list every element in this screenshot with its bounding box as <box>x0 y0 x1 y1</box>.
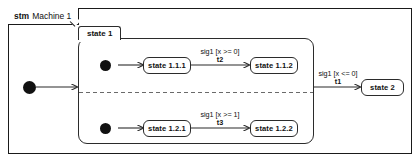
state-state-1-2-2[interactable]: state 1.2.2 <box>250 120 298 137</box>
state-state-2[interactable]: state 2 <box>361 79 404 96</box>
transition-label-t3: sig1 [x >= 1] t3 <box>191 111 249 128</box>
transition-name-t1: t1 <box>313 78 363 86</box>
state-machine-diagram: stm Machine 1 state 1 state 1.1.1 stat <box>0 0 420 165</box>
composite-state-label: state 1 <box>78 26 121 40</box>
initial-pseudostate-region-2[interactable] <box>100 123 111 134</box>
initial-pseudostate-machine[interactable] <box>23 81 36 94</box>
composite-state-name: state 1 <box>87 30 112 38</box>
state-state-1-2-1[interactable]: state 1.2.1 <box>143 120 191 137</box>
initial-pseudostate-region-1[interactable] <box>100 60 111 71</box>
transition-name-t3: t3 <box>191 119 249 127</box>
transition-name-t2: t2 <box>191 56 249 64</box>
state-state-1-1-2[interactable]: state 1.1.2 <box>250 57 298 74</box>
state-state-1-1-1[interactable]: state 1.1.1 <box>143 57 191 74</box>
transition-label-t1: sig1 [x <= 0] t1 <box>313 70 363 87</box>
transition-label-t2: sig1 [x >= 0] t2 <box>191 48 249 65</box>
